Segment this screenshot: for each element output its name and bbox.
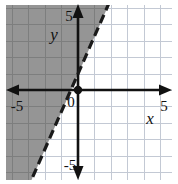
- x-axis-right-tick-label: 5: [160, 98, 168, 114]
- coordinate-graph-figure: 5 -5 5 -5 0 y x: [0, 0, 178, 184]
- x-axis-left-tick-label: -5: [11, 98, 24, 114]
- x-variable-label: x: [145, 109, 154, 128]
- y-variable-label: y: [48, 25, 58, 44]
- y-axis-bottom-tick-label: -5: [64, 157, 77, 173]
- graph-canvas: 5 -5 5 -5 0 y x: [0, 0, 178, 184]
- y-axis-top-tick-label: 5: [65, 8, 73, 24]
- origin-label: 0: [67, 94, 75, 110]
- origin-point: [74, 86, 82, 94]
